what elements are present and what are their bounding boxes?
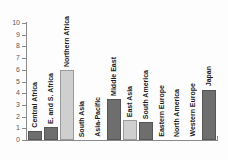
bar[interactable] bbox=[60, 70, 74, 140]
category-label: Eastern Europe bbox=[155, 85, 169, 137]
y-axis-tick-label: 6 bbox=[0, 66, 20, 73]
category-label: Central Africa bbox=[28, 82, 42, 128]
x-axis-endcap bbox=[217, 136, 218, 141]
y-axis-tick bbox=[22, 93, 26, 94]
y-axis-tick-label: 8 bbox=[0, 42, 20, 49]
y-axis-tick bbox=[22, 58, 26, 59]
category-label: South Asia bbox=[75, 101, 89, 137]
y-axis-tick-label: 0 bbox=[0, 136, 20, 143]
bar-slot: South America bbox=[139, 23, 153, 140]
bar-slot: E. and S. Africa bbox=[44, 23, 58, 140]
bar-slot: Japan bbox=[202, 23, 216, 140]
bar[interactable] bbox=[107, 99, 121, 140]
x-axis-line bbox=[26, 140, 218, 141]
y-axis-tick-label: 7 bbox=[0, 54, 20, 61]
y-axis-tick bbox=[22, 82, 26, 83]
category-label: E. and S. Africa bbox=[44, 73, 58, 124]
bar[interactable] bbox=[202, 90, 216, 140]
plot-area: Central AfricaE. and S. AfricaNorthern A… bbox=[27, 23, 217, 140]
category-label: Middle East bbox=[107, 57, 121, 96]
category-label: Northern Africa bbox=[60, 16, 74, 67]
bar-chart: 012345678910 Central AfricaE. and S. Afr… bbox=[0, 0, 228, 160]
category-label: East Asia bbox=[123, 86, 137, 117]
y-axis-tick bbox=[22, 70, 26, 71]
y-axis-tick-label: 5 bbox=[0, 78, 20, 85]
y-axis-tick bbox=[22, 23, 26, 24]
bar-slot: Eastern Europe bbox=[155, 23, 169, 140]
y-axis-tick-label: 9 bbox=[0, 31, 20, 38]
category-label: Western Europe bbox=[186, 83, 200, 137]
y-axis-tick-label: 10 bbox=[0, 19, 20, 26]
bar[interactable] bbox=[139, 122, 153, 140]
bar-slot: Northern Africa bbox=[60, 23, 74, 140]
bar[interactable] bbox=[123, 120, 137, 140]
y-axis-tick bbox=[22, 117, 26, 118]
y-axis-tick bbox=[22, 35, 26, 36]
y-axis-tick bbox=[22, 128, 26, 129]
bar-slot: Asia-Pacific bbox=[91, 23, 105, 140]
category-label: South America bbox=[139, 70, 153, 119]
y-axis-tick bbox=[22, 140, 26, 141]
y-axis-tick bbox=[22, 105, 26, 106]
bar-slot: Central Africa bbox=[28, 23, 42, 140]
bar[interactable] bbox=[28, 131, 42, 140]
category-label: Asia-Pacific bbox=[91, 97, 105, 137]
bar[interactable] bbox=[44, 127, 58, 140]
category-label: North America bbox=[170, 89, 184, 137]
y-axis-tick-label: 3 bbox=[0, 101, 20, 108]
bar-slot: Western Europe bbox=[186, 23, 200, 140]
y-axis-tick bbox=[22, 46, 26, 47]
bar-slot: South Asia bbox=[75, 23, 89, 140]
y-axis-tick-label: 2 bbox=[0, 113, 20, 120]
y-axis-tick-label: 1 bbox=[0, 124, 20, 131]
category-label: Japan bbox=[202, 66, 216, 86]
bar-slot: East Asia bbox=[123, 23, 137, 140]
bar-slot: Middle East bbox=[107, 23, 121, 140]
y-axis-tick-label: 4 bbox=[0, 89, 20, 96]
bar-slot: North America bbox=[170, 23, 184, 140]
